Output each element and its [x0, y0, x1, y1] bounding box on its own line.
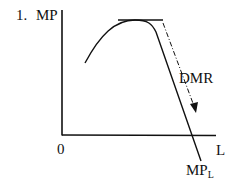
diagram-graphic: [0, 0, 241, 182]
x-axis: [62, 135, 216, 136]
mp-curve: [85, 20, 201, 161]
mp-curve-label-subscript: L: [208, 169, 214, 180]
mp-curve-label: MPL: [186, 163, 214, 180]
marginal-product-diagram: 1. MP DMR 0 L MPL: [0, 0, 241, 182]
origin-label: 0: [57, 142, 65, 157]
arrowhead-icon: [190, 102, 198, 113]
mp-curve-label-main: MP: [186, 162, 208, 178]
x-axis-label: L: [216, 143, 225, 158]
y-axis-label: MP: [36, 8, 58, 23]
figure-number: 1.: [16, 8, 27, 23]
dmr-label: DMR: [179, 71, 213, 86]
